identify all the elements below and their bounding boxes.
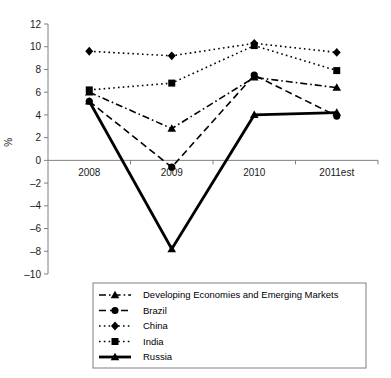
chart-figure: 121086420–2–4–6–8–102008200920102011est%… [0, 0, 391, 378]
marker-diamond [333, 48, 341, 57]
series-developing-economies-and-emerging-markets [85, 73, 341, 132]
y-tick-label: 6 [35, 87, 41, 98]
legend-label: Developing Economies and Emerging Market… [143, 289, 339, 300]
y-tick-label: 2 [35, 132, 41, 143]
x-tick-label: 2011est [319, 167, 354, 178]
y-tick-label: –6 [30, 223, 42, 234]
legend-label: Brazil [143, 305, 167, 316]
series-path [89, 43, 337, 56]
y-tick-label: –8 [30, 246, 42, 257]
marker-square [168, 80, 175, 87]
y-tick-label: 8 [35, 64, 41, 75]
series-path [89, 101, 337, 249]
x-tick-label: 2010 [243, 167, 266, 178]
series-path [89, 46, 337, 90]
y-tick-label: –4 [30, 200, 42, 211]
y-tick-label: 4 [35, 110, 41, 121]
line-chart: 121086420–2–4–6–8–102008200920102011est%… [0, 0, 391, 378]
y-tick-label: 12 [30, 19, 42, 30]
x-tick-label: 2008 [78, 167, 101, 178]
marker-square [112, 338, 119, 345]
marker-circle [168, 164, 175, 171]
marker-diamond [85, 47, 93, 56]
marker-circle [251, 72, 258, 79]
series-india [86, 42, 341, 93]
marker-diamond [168, 51, 176, 60]
y-tick-label: 0 [35, 155, 41, 166]
series-china [85, 39, 341, 60]
marker-circle [111, 307, 118, 314]
y-tick-label: –2 [30, 178, 42, 189]
y-tick-label: 10 [30, 41, 42, 52]
marker-square [333, 67, 340, 74]
marker-triangle [167, 124, 176, 132]
marker-square [86, 86, 93, 93]
legend-label: Russia [143, 351, 173, 362]
legend: Developing Economies and Emerging Market… [93, 283, 366, 368]
y-axis-title: % [3, 138, 14, 147]
series-path [89, 75, 337, 167]
y-tick-label: –10 [24, 269, 41, 280]
legend-label: India [143, 336, 164, 347]
marker-square [251, 42, 258, 49]
legend-label: China [143, 320, 169, 331]
